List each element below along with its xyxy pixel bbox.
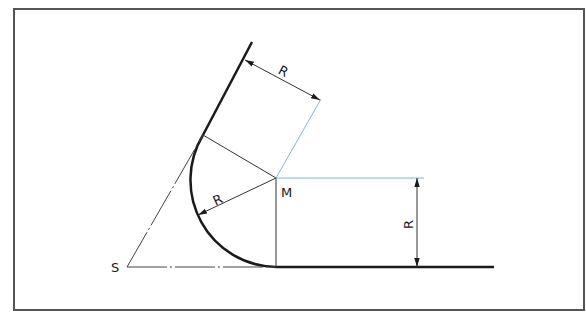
label-radius-arc: R xyxy=(211,191,226,208)
label-radius-vertical: R xyxy=(401,220,416,229)
label-center-M: M xyxy=(281,185,292,200)
radius-line-to-slant xyxy=(203,135,276,178)
rounding-arc xyxy=(190,135,276,267)
contour-slanted-edge xyxy=(203,42,252,135)
construction-line-slanted xyxy=(127,135,203,267)
geometry-diagram: R R R M S xyxy=(0,0,586,316)
drawing-frame xyxy=(14,9,584,310)
radius-dimension-arc xyxy=(198,178,276,215)
offset-line-parallel-slant xyxy=(276,99,321,178)
label-vertex-S: S xyxy=(111,260,119,275)
